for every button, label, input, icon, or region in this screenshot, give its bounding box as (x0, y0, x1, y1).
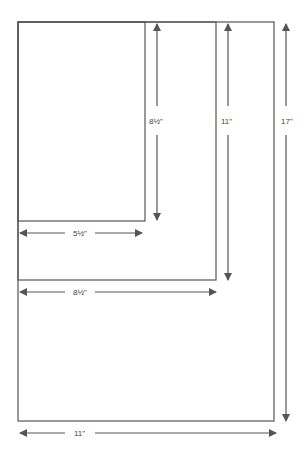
label-height-17: 17" (281, 117, 293, 126)
letter-sheet (18, 22, 216, 280)
label-height-11: 11" (221, 117, 232, 126)
label-width-5-5: 5½" (73, 229, 87, 238)
paper-size-diagram: 8½" 11" 17" 5½" 8½" 11" (0, 0, 304, 461)
label-height-8-5: 8½" (149, 117, 163, 126)
label-width-11: 11" (74, 429, 85, 438)
half-letter-sheet (18, 22, 145, 221)
label-width-8-5: 8½" (73, 288, 87, 297)
